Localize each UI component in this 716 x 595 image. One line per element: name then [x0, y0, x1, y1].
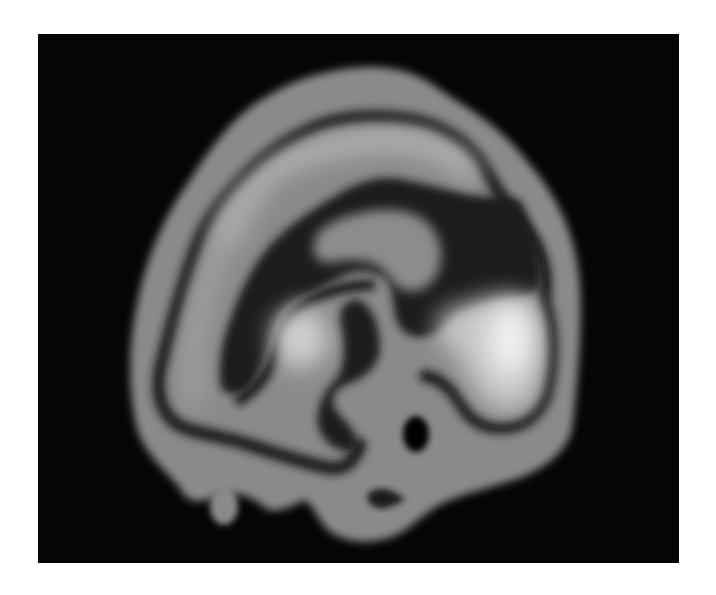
- small-blob: [210, 487, 238, 525]
- left-bright-region: [272, 308, 328, 368]
- brightest-spot: [488, 304, 532, 376]
- dark-hole: [403, 416, 429, 452]
- brain-scan-graphic: [38, 34, 679, 563]
- scan-image-panel: [38, 34, 679, 563]
